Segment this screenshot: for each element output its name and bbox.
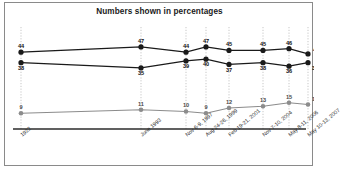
x-axis-tick-label: June 1993 xyxy=(139,117,162,138)
x-axis-tick-labels: 1922June 1993Nov 6-9, 1997Aug 24-26, 199… xyxy=(5,3,314,167)
chart-frame: Numbers shown in percentages 44474447454… xyxy=(4,2,313,166)
x-axis-tick-label: 1922 xyxy=(19,125,32,137)
